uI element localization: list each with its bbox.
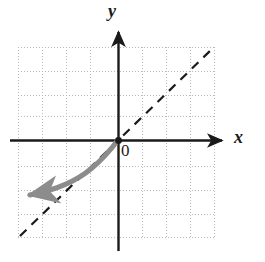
function-curve xyxy=(30,140,118,195)
y-axis-label: y xyxy=(108,2,116,20)
x-axis-label: x xyxy=(234,128,243,146)
origin-label: 0 xyxy=(121,142,130,159)
graph-figure: y x 0 xyxy=(0,0,265,262)
graph-canvas xyxy=(0,0,265,262)
